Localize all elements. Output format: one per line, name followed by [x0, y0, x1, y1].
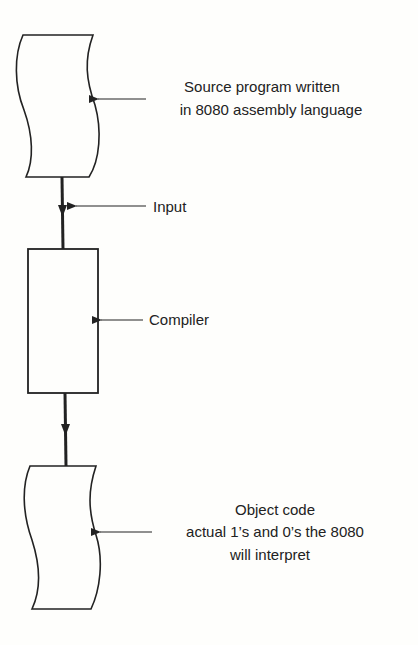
edge-arrowhead-2 [61, 424, 70, 436]
object-document-shape [24, 466, 100, 609]
compiler-box [28, 249, 98, 393]
object-label-line-3: will interpret [230, 544, 310, 566]
diagram-canvas: Source program written in 8080 assembly … [0, 0, 418, 645]
compiler-label: Compiler [149, 309, 209, 331]
object-label-line-1: Object code [235, 499, 315, 521]
input-edge-label: Input [153, 196, 186, 218]
source-label-line-1: Source program written [184, 76, 340, 98]
source-document-shape [16, 35, 99, 177]
object-label-line-2: actual 1’s and 0’s the 8080 [186, 521, 364, 543]
edge-arrowhead-1 [58, 205, 67, 217]
source-label-line-2: in 8080 assembly language [180, 99, 363, 121]
